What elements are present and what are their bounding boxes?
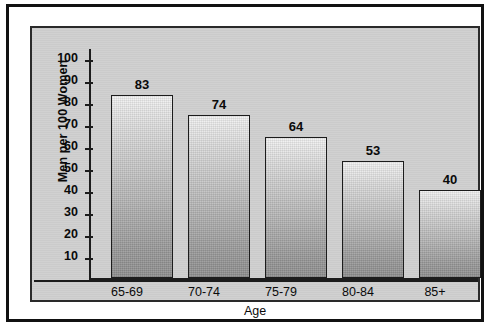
y-tick-label-40: 40 — [44, 183, 78, 197]
x-tick-label-80-84: 80-84 — [318, 285, 398, 299]
bar-value-65-69: 83 — [112, 77, 172, 92]
y-tick-label-80: 80 — [44, 95, 78, 109]
bar-75-79[interactable]: 64 — [265, 137, 327, 278]
bar-value-70-74: 74 — [189, 97, 249, 112]
y-tick-50: 50 — [85, 170, 93, 172]
y-tick-label-70: 70 — [44, 117, 78, 131]
y-tick-label-30: 30 — [44, 205, 78, 219]
y-tick-80: 80 — [85, 104, 93, 106]
y-tick-10: 10 — [85, 258, 93, 260]
bar-70-74[interactable]: 74 — [188, 115, 250, 278]
figure-outer-frame: Men per 100 Women 100 90 80 70 60 50 — [6, 4, 484, 322]
y-tick-label-100: 100 — [44, 51, 78, 65]
bar-value-80-84: 53 — [343, 143, 403, 158]
x-tick-label-65-69: 65-69 — [87, 285, 167, 299]
x-axis-label-strip: 65-69 70-74 75-79 80-84 85+ — [34, 280, 478, 302]
y-tick-30: 30 — [85, 214, 93, 216]
x-tick-label-70-74: 70-74 — [164, 285, 244, 299]
bar-value-85-plus: 40 — [420, 172, 480, 187]
x-tick-label-85-plus: 85+ — [395, 285, 475, 299]
y-tick-label-20: 20 — [44, 227, 78, 241]
y-tick-40: 40 — [85, 192, 93, 194]
y-tick-label-90: 90 — [44, 73, 78, 87]
y-tick-100: 100 — [85, 60, 93, 62]
bar-80-84[interactable]: 53 — [342, 161, 404, 278]
bar-value-75-79: 64 — [266, 119, 326, 134]
x-axis-title: Age — [32, 304, 478, 318]
x-tick-label-75-79: 75-79 — [241, 285, 321, 299]
plot-area: 100 90 80 70 60 50 40 30 — [89, 49, 478, 280]
y-tick-label-50: 50 — [44, 161, 78, 175]
chart-panel: Men per 100 Women 100 90 80 70 60 50 — [30, 26, 480, 302]
y-tick-label-60: 60 — [44, 139, 78, 153]
y-tick-70: 70 — [85, 126, 93, 128]
y-tick-label-10: 10 — [44, 249, 78, 263]
bar-65-69[interactable]: 83 — [111, 95, 173, 278]
y-tick-60: 60 — [85, 148, 93, 150]
bar-85-plus[interactable]: 40 — [419, 190, 481, 278]
y-tick-90: 90 — [85, 82, 93, 84]
y-tick-20: 20 — [85, 236, 93, 238]
